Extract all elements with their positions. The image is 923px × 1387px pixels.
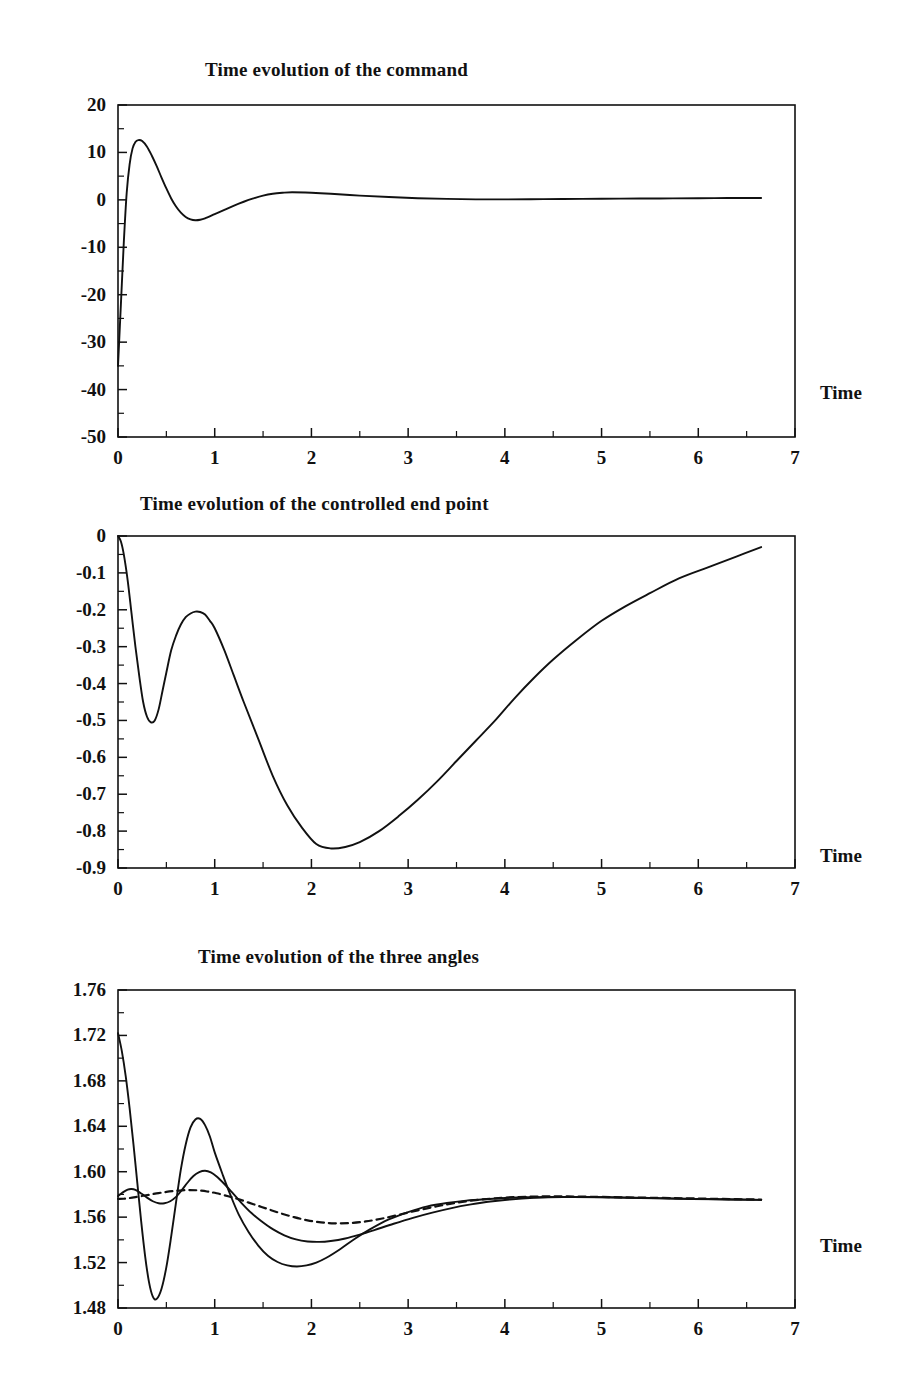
y-tick-label: 1.72 <box>0 1024 106 1046</box>
x-tick-label: 1 <box>210 878 220 900</box>
x-tick-label: 5 <box>597 447 607 469</box>
y-tick-label: -20 <box>0 284 106 306</box>
x-axis-label-controlled-end-point: Time <box>820 845 862 867</box>
y-tick-label: -0.6 <box>0 746 106 768</box>
y-tick-label: -0.8 <box>0 820 106 842</box>
x-tick-label: 3 <box>403 447 413 469</box>
y-tick-label: -10 <box>0 236 106 258</box>
x-tick-label: 5 <box>597 1318 607 1340</box>
y-tick-label: -40 <box>0 379 106 401</box>
y-tick-label: 0 <box>0 525 106 547</box>
y-tick-label: -0.5 <box>0 709 106 731</box>
y-tick-label: 1.60 <box>0 1161 106 1183</box>
axes-frame <box>118 105 795 437</box>
y-tick-label: 1.76 <box>0 979 106 1001</box>
x-tick-label: 2 <box>307 1318 317 1340</box>
panel-command: Time evolution of the command Time 20100… <box>0 0 923 470</box>
y-tick-label: 1.68 <box>0 1070 106 1092</box>
y-tick-label: 0 <box>0 189 106 211</box>
y-tick-label: 1.56 <box>0 1206 106 1228</box>
x-tick-label: 4 <box>500 1318 510 1340</box>
y-tick-label: -0.1 <box>0 562 106 584</box>
y-tick-label: 1.48 <box>0 1297 106 1319</box>
y-tick-label: -30 <box>0 331 106 353</box>
x-tick-label: 7 <box>790 878 800 900</box>
plot-area-three-angles <box>0 940 923 1387</box>
series-line-1 <box>118 536 761 849</box>
y-tick-label: 1.64 <box>0 1115 106 1137</box>
x-axis-label-command: Time <box>820 382 862 404</box>
panel-controlled-end-point: Time evolution of the controlled end poi… <box>0 470 923 940</box>
y-tick-label: -0.3 <box>0 636 106 658</box>
y-tick-label: 10 <box>0 141 106 163</box>
x-tick-label: 2 <box>307 447 317 469</box>
plot-area-controlled-end-point <box>0 470 923 940</box>
x-tick-label: 1 <box>210 447 220 469</box>
x-tick-label: 5 <box>597 878 607 900</box>
panel-three-angles: Time evolution of the three angles Time … <box>0 940 923 1387</box>
x-tick-label: 7 <box>790 1318 800 1340</box>
x-tick-label: 0 <box>113 878 123 900</box>
x-tick-label: 0 <box>113 1318 123 1340</box>
y-tick-label: 20 <box>0 94 106 116</box>
panel-title-controlled-end-point: Time evolution of the controlled end poi… <box>140 493 489 515</box>
x-tick-label: 2 <box>307 878 317 900</box>
y-tick-label: -50 <box>0 426 106 448</box>
series-line-1 <box>118 140 761 366</box>
series-line-1 <box>118 1033 761 1299</box>
x-tick-label: 1 <box>210 1318 220 1340</box>
x-tick-label: 3 <box>403 1318 413 1340</box>
figure-root: Time evolution of the command Time 20100… <box>0 0 923 1387</box>
x-tick-label: 7 <box>790 447 800 469</box>
axes-frame <box>118 990 795 1308</box>
x-tick-label: 6 <box>694 447 704 469</box>
axes-frame <box>118 536 795 868</box>
panel-title-three-angles: Time evolution of the three angles <box>198 946 479 968</box>
x-tick-label: 3 <box>403 878 413 900</box>
panel-title-command: Time evolution of the command <box>205 59 468 81</box>
y-tick-label: -0.9 <box>0 857 106 879</box>
y-tick-label: -0.2 <box>0 599 106 621</box>
x-tick-label: 4 <box>500 447 510 469</box>
y-tick-label: 1.52 <box>0 1252 106 1274</box>
x-tick-label: 6 <box>694 878 704 900</box>
x-tick-label: 4 <box>500 878 510 900</box>
y-tick-label: -0.7 <box>0 783 106 805</box>
y-tick-label: -0.4 <box>0 673 106 695</box>
x-tick-label: 6 <box>694 1318 704 1340</box>
x-tick-label: 0 <box>113 447 123 469</box>
series-line-3 <box>118 1190 761 1223</box>
x-axis-label-three-angles: Time <box>820 1235 862 1257</box>
